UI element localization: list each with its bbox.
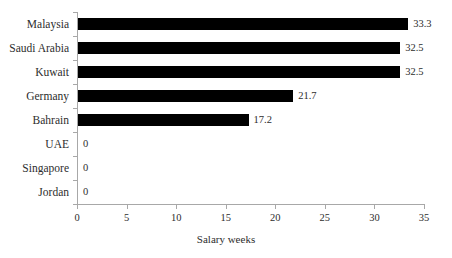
x-axis-tick [226,204,227,209]
category-label: Singapore [22,156,77,180]
x-axis-tick-label: 10 [171,212,182,223]
bar [78,66,400,78]
bar-value-label: 0 [78,162,88,174]
x-axis-tick [374,204,375,209]
bar-row: Kuwait32.5 [77,60,424,84]
x-axis-tick-label: 15 [220,212,231,223]
bar [78,42,400,54]
bar-value-label: 32.5 [400,42,423,54]
x-axis-tick [424,204,425,209]
x-axis-tick [77,204,78,209]
x-axis-tick-label: 30 [369,212,380,223]
x-axis-tick-label: 5 [124,212,129,223]
x-axis-tick-label: 20 [270,212,281,223]
x-axis-tick-label: 25 [320,212,331,223]
x-axis-tick [127,204,128,209]
bar-value-label: 17.2 [249,114,272,126]
bar-chart: Malaysia33.3Saudi Arabia32.5Kuwait32.5Ge… [0,0,452,258]
x-axis-tick-label: 0 [74,212,79,223]
bar-value-label: 0 [78,138,88,150]
category-label: Germany [26,84,77,108]
category-label: Malaysia [27,12,77,36]
bar-row: Jordan0 [77,180,424,204]
category-label: Saudi Arabia [9,36,77,60]
category-label: Bahrain [33,108,77,132]
x-axis-tick [325,204,326,209]
category-label: UAE [45,132,77,156]
bar [78,114,249,126]
x-axis-title: Salary weeks [0,233,452,245]
x-axis-tick-label: 35 [419,212,430,223]
bar-value-label: 33.3 [408,18,431,30]
bar-value-label: 21.7 [293,90,316,102]
bar-row: Bahrain17.2 [77,108,424,132]
category-label: Jordan [38,180,77,204]
bar-value-label: 0 [78,186,88,198]
bar-value-label: 32.5 [400,66,423,78]
bar-row: Malaysia33.3 [77,12,424,36]
x-axis-tick [275,204,276,209]
bar-row: Saudi Arabia32.5 [77,36,424,60]
bar [78,90,293,102]
bar-row: UAE0 [77,132,424,156]
bar-row: Singapore0 [77,156,424,180]
bar-row: Germany21.7 [77,84,424,108]
plot-area: Malaysia33.3Saudi Arabia32.5Kuwait32.5Ge… [77,12,424,204]
x-axis-tick [176,204,177,209]
category-label: Kuwait [35,60,77,84]
bar [78,18,408,30]
x-axis-line [77,204,425,205]
